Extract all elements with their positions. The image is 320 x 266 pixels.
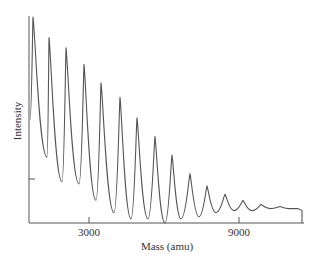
mass-spectrum-chart	[0, 0, 320, 266]
x-tick-label: 3000	[78, 226, 100, 238]
spectrum-line	[30, 17, 302, 223]
y-axis-title: Intensity	[11, 102, 23, 141]
x-tick-label: 9000	[228, 226, 250, 238]
x-axis-title: Mass (amu)	[141, 240, 193, 252]
